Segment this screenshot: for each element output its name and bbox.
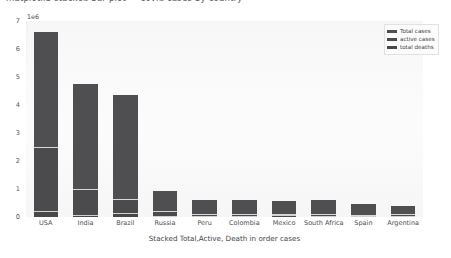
bar-segment-total-deaths <box>232 216 257 217</box>
x-axis: USAIndiaBrazilRussiaPeruColombiaMexicoSo… <box>26 219 423 230</box>
legend-entry: total deaths <box>387 44 435 51</box>
legend-swatch-icon <box>387 30 397 33</box>
bar-group <box>391 206 416 217</box>
bar-group <box>311 200 336 217</box>
x-axis-tick-label: Mexico <box>273 219 296 227</box>
bar-segment-total-deaths <box>153 216 178 217</box>
bar-segment-active-cases <box>34 147 59 217</box>
legend: Total casesactive casestotal deaths <box>384 24 439 55</box>
y-axis-tick-label: 0 <box>16 213 20 221</box>
x-axis-tick-label: India <box>78 219 94 227</box>
bar-group <box>73 84 98 217</box>
x-axis-tick-label: South Africa <box>304 219 344 227</box>
x-axis-tick-label: Spain <box>354 219 372 227</box>
legend-entry: Total cases <box>387 28 435 35</box>
y-axis-tick-label: 3 <box>16 129 20 137</box>
legend-label: Total cases <box>400 29 431 35</box>
bar-segment-total-deaths <box>192 216 217 217</box>
x-axis-tick-label: Russia <box>154 219 175 227</box>
y-axis-tick-label: 4 <box>16 101 20 109</box>
x-axis-tick-label: USA <box>39 219 52 227</box>
y-axis-tick-label: 2 <box>16 157 20 165</box>
bar-segment-total-deaths <box>34 211 59 217</box>
bar-segment-total-deaths <box>73 215 98 217</box>
bar-group <box>34 32 59 217</box>
legend-label: active cases <box>400 37 435 43</box>
x-axis-tick-label: Brazil <box>116 219 134 227</box>
bar-group <box>272 201 297 217</box>
y-axis-tick-label: 1 <box>16 185 20 193</box>
chart-figure: 1e6 01234567 USAIndiaBrazilRussiaPeruCol… <box>0 0 451 258</box>
legend-swatch-icon <box>387 46 397 49</box>
legend-entry: active cases <box>387 36 435 43</box>
x-axis-tick-label: Colombia <box>229 219 260 227</box>
bar-segment-total-deaths <box>351 216 376 217</box>
legend-label: total deaths <box>400 45 434 51</box>
bar-group <box>153 191 178 217</box>
x-axis-tick-label: Peru <box>197 219 211 227</box>
y-axis: 01234567 <box>0 21 24 217</box>
bar-group <box>232 200 257 217</box>
bar-segment-active-cases <box>73 189 98 217</box>
legend-swatch-icon <box>387 38 397 41</box>
bar-segment-total-deaths <box>272 215 297 217</box>
bar-group <box>113 95 138 217</box>
x-axis-tick-label: Argentina <box>387 219 419 227</box>
y-axis-tick-label: 7 <box>16 17 20 25</box>
y-axis-tick-label: 6 <box>16 45 20 53</box>
bar-group <box>351 204 376 217</box>
bar-group <box>192 200 217 217</box>
bar-segment-total-deaths <box>391 216 416 217</box>
bar-segment-total-deaths <box>311 216 336 217</box>
bars-layer <box>26 21 423 217</box>
y-axis-tick-label: 5 <box>16 73 20 81</box>
bar-segment-total-deaths <box>113 213 138 217</box>
plot-area <box>26 21 423 217</box>
y-axis-multiplier-label: 1e6 <box>27 13 39 21</box>
x-axis-title: Stacked Total,Active, Death in order cas… <box>26 234 423 243</box>
